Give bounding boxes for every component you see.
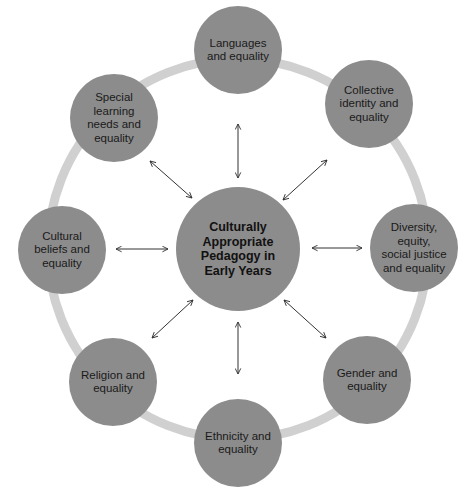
node-diversity: Diversity,equity,social justiceand equal…	[370, 204, 458, 292]
node-ethnicity: Ethnicity andequality	[194, 399, 282, 487]
double-arrow-religion	[152, 300, 193, 338]
double-arrow-special	[150, 161, 192, 198]
node-collective: Collectiveidentity andequality	[325, 60, 413, 148]
node-label: Languagesand equality	[201, 37, 275, 64]
center-node: CulturallyAppropriatePedagogy inEarly Ye…	[176, 187, 300, 311]
node-label: Culturalbeliefs andequality	[28, 230, 96, 271]
node-label: Collectiveidentity andequality	[334, 84, 405, 125]
node-label: Religion andequality	[75, 369, 151, 396]
node-label: Diversity,equity,social justiceand equal…	[375, 221, 452, 275]
node-religion: Religion andequality	[69, 338, 157, 426]
double-arrow-gender	[284, 300, 326, 338]
node-languages: Languagesand equality	[194, 6, 282, 94]
node-special: Speciallearningneeds andequality	[70, 74, 158, 162]
node-label: Gender andequality	[331, 367, 404, 394]
node-label: Ethnicity andequality	[199, 430, 277, 457]
node-gender: Gender andequality	[323, 336, 411, 424]
center-label: CulturallyAppropriatePedagogy inEarly Ye…	[195, 220, 281, 278]
node-label: Speciallearningneeds andequality	[81, 91, 147, 145]
node-cultural: Culturalbeliefs andequality	[18, 206, 106, 294]
double-arrow-collective	[283, 160, 327, 200]
